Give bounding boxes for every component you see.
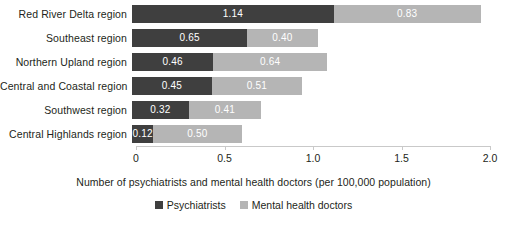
- bar-segment[interactable]: 0.12: [132, 125, 153, 143]
- bar-row: Central and Coastal region0.450.51: [0, 74, 507, 98]
- bar-segment[interactable]: 0.41: [189, 101, 262, 119]
- bar-value-label: 0.64: [260, 57, 280, 67]
- x-axis-tick: [402, 146, 403, 150]
- x-axis-tick: [136, 146, 137, 150]
- bar-segment[interactable]: 1.14: [132, 5, 334, 23]
- bar-segment[interactable]: 0.32: [132, 101, 189, 119]
- x-axis-tick-label: 0.5: [217, 152, 232, 164]
- stacked-bar[interactable]: 0.460.64: [132, 53, 327, 71]
- bar-segment[interactable]: 0.50: [153, 125, 242, 143]
- bar-value-label: 1.14: [223, 9, 243, 19]
- bar-segment[interactable]: 0.65: [132, 29, 247, 47]
- category-label: Southeast region: [0, 32, 132, 44]
- bar-value-label: 0.40: [272, 33, 292, 43]
- x-axis-tick-label: 1.0: [306, 152, 321, 164]
- bar-row: Southeast region0.650.40: [0, 26, 507, 50]
- bar-segment[interactable]: 0.64: [213, 53, 326, 71]
- bar-value-label: 0.32: [150, 105, 170, 115]
- bar-segment[interactable]: 0.51: [212, 77, 302, 95]
- x-axis-tick: [490, 146, 491, 150]
- bar-segment[interactable]: 0.40: [247, 29, 318, 47]
- bar-segment[interactable]: 0.83: [334, 5, 481, 23]
- bar-segment[interactable]: 0.45: [132, 77, 212, 95]
- legend-label: Mental health doctors: [252, 199, 352, 211]
- category-label: Southwest region: [0, 104, 132, 116]
- bar-track: 0.320.41: [132, 98, 507, 122]
- bar-row: Northern Upland region0.460.64: [0, 50, 507, 74]
- bar-track: 0.120.50: [132, 122, 507, 146]
- category-label: Central Highlands region: [0, 128, 132, 140]
- bar-row: Red River Delta region1.140.83: [0, 2, 507, 26]
- category-label: Central and Coastal region: [0, 80, 132, 92]
- bar-value-label: 0.83: [397, 9, 417, 19]
- bar-value-label: 0.41: [215, 105, 235, 115]
- chart-legend: PsychiatristsMental health doctors: [0, 199, 507, 211]
- bar-track: 0.450.51: [132, 74, 507, 98]
- stacked-bar[interactable]: 0.320.41: [132, 101, 261, 119]
- legend-item[interactable]: Psychiatrists: [155, 199, 226, 211]
- x-axis-tick: [225, 146, 226, 150]
- bar-track: 1.140.83: [132, 2, 507, 26]
- bar-row: Southwest region0.320.41: [0, 98, 507, 122]
- legend-swatch-icon: [240, 201, 248, 209]
- bar-row: Central Highlands region0.120.50: [0, 122, 507, 146]
- bar-value-label: 0.46: [163, 57, 183, 67]
- bar-value-label: 0.50: [187, 129, 207, 139]
- stacked-bar[interactable]: 0.120.50: [132, 125, 242, 143]
- bar-track: 0.460.64: [132, 50, 507, 74]
- legend-swatch-icon: [155, 201, 163, 209]
- x-axis-tick: [313, 146, 314, 150]
- legend-item[interactable]: Mental health doctors: [240, 199, 352, 211]
- stacked-bar-chart: Red River Delta region1.140.83Southeast …: [0, 0, 507, 228]
- bar-rows: Red River Delta region1.140.83Southeast …: [0, 0, 507, 146]
- legend-label: Psychiatrists: [167, 199, 226, 211]
- x-axis-tick-label: 0: [133, 152, 139, 164]
- category-label: Red River Delta region: [0, 8, 132, 20]
- x-axis-title: Number of psychiatrists and mental healt…: [0, 176, 507, 188]
- x-axis-tick-label: 2.0: [483, 152, 498, 164]
- category-label: Northern Upland region: [0, 56, 132, 68]
- stacked-bar[interactable]: 0.650.40: [132, 29, 318, 47]
- bar-track: 0.650.40: [132, 26, 507, 50]
- bar-value-label: 0.51: [247, 81, 267, 91]
- bar-value-label: 0.65: [179, 33, 199, 43]
- stacked-bar[interactable]: 1.140.83: [132, 5, 481, 23]
- stacked-bar[interactable]: 0.450.51: [132, 77, 302, 95]
- bar-value-label: 0.45: [162, 81, 182, 91]
- x-axis-tick-label: 1.5: [394, 152, 409, 164]
- bar-value-label: 0.12: [132, 129, 152, 139]
- plot-area: Red River Delta region1.140.83Southeast …: [0, 0, 507, 150]
- bar-segment[interactable]: 0.46: [132, 53, 213, 71]
